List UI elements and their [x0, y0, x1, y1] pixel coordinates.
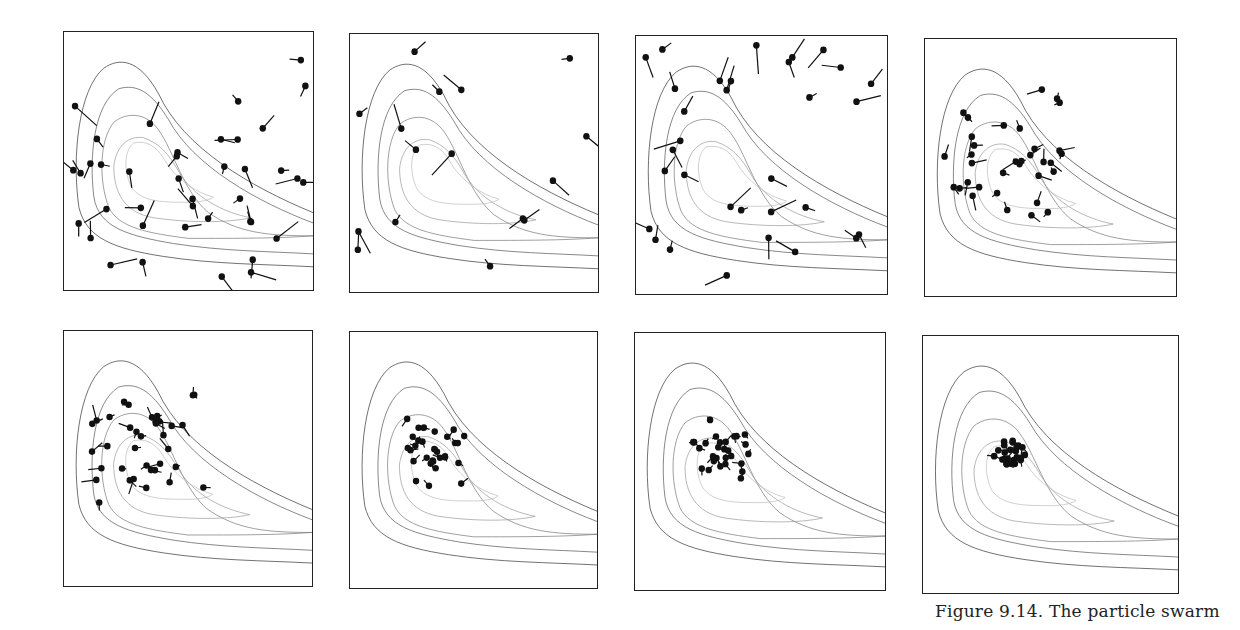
particle-dot [728, 78, 735, 85]
particle-dot [705, 467, 712, 474]
particle-dot [789, 54, 796, 61]
particle-dot [995, 447, 1002, 454]
particle-dot [455, 460, 461, 467]
particle-dot [160, 432, 166, 439]
contour-line [388, 415, 597, 537]
particle-dot [768, 175, 775, 182]
particle-dot [175, 175, 181, 182]
particle-dot [278, 167, 284, 174]
particle-dot [731, 433, 738, 440]
particle-dot [662, 168, 669, 175]
particle-dot [702, 440, 709, 447]
particle-dot [448, 150, 454, 157]
panel-plot [635, 333, 885, 590]
panel-plot [925, 39, 1176, 296]
particle-dot [140, 222, 146, 229]
contour-line [400, 139, 536, 223]
particle-dot [191, 391, 197, 398]
particle-dot [802, 204, 809, 211]
particle-dot [98, 465, 104, 472]
particle-dot [127, 424, 133, 431]
particle-dot [458, 86, 464, 93]
particle-dot [404, 416, 410, 423]
particle-dot [94, 136, 100, 143]
particle-dot [182, 224, 188, 231]
contour-line [673, 416, 885, 539]
particle-dot [126, 168, 132, 175]
particle-dot [173, 464, 179, 471]
panel-plot [64, 32, 313, 290]
particle-dot [646, 226, 653, 233]
particle-dot [696, 445, 703, 452]
particle-dot [410, 433, 416, 440]
particle-dot [424, 454, 430, 461]
particle-dot [699, 465, 706, 472]
velocity-tail [394, 104, 401, 128]
particle-dot [768, 209, 775, 216]
figure-panel-4 [924, 38, 1177, 297]
velocity-tail [705, 275, 727, 285]
particle-dot [1050, 168, 1057, 175]
particle-dot [103, 206, 109, 213]
particle-dot [991, 453, 998, 460]
particle-dot [652, 236, 659, 243]
particle-dot [458, 480, 464, 487]
contour-line [686, 141, 824, 225]
velocity-tail [731, 188, 751, 207]
contour-line [953, 94, 1176, 260]
velocity-tail [444, 75, 462, 90]
particle-dot [567, 55, 573, 62]
particle-dot [713, 433, 720, 440]
particle-dot [421, 424, 427, 431]
velocity-tail [150, 102, 159, 124]
particle-dot [717, 77, 724, 84]
particle-dot [107, 262, 113, 269]
particle-dot [89, 421, 95, 428]
particle-dot [93, 477, 99, 484]
particle-dot [738, 207, 745, 214]
contour-line [76, 361, 312, 563]
particle-dot [1017, 125, 1024, 132]
particle-dot [1003, 461, 1010, 468]
particle-dot [356, 110, 362, 117]
particle-dot [659, 46, 666, 53]
particle-dot [667, 246, 674, 253]
velocity-tail [792, 39, 804, 58]
particle-dot [738, 475, 745, 482]
particle-dot [413, 146, 419, 153]
particle-dot [436, 88, 442, 95]
particle-dot [405, 445, 411, 452]
figure-panel-8 [922, 335, 1179, 594]
particle-dot [166, 479, 172, 486]
particle-dot [392, 219, 398, 226]
particle-dot [219, 273, 225, 280]
particle-dot [235, 98, 241, 105]
particle-dot [72, 103, 78, 110]
particle-dot [1045, 209, 1052, 216]
particle-dot [174, 153, 180, 160]
particle-dot [853, 235, 860, 242]
particle-dot [119, 465, 125, 472]
particle-dot [1028, 212, 1035, 219]
particle-dot [157, 460, 163, 467]
particle-dot [75, 220, 81, 227]
particle-dot [994, 190, 1001, 197]
particle-dot [87, 235, 93, 242]
velocity-tail [84, 209, 106, 222]
velocity-tail [276, 178, 298, 184]
figure-panel-3 [635, 35, 888, 295]
particle-dot [950, 184, 957, 191]
particle-dot [642, 54, 649, 61]
panel-plot [350, 34, 598, 292]
particle-dot [104, 443, 110, 450]
particle-dot [806, 94, 813, 101]
particle-dot [1039, 86, 1046, 93]
contour-line [126, 142, 213, 202]
particle-dot [1000, 169, 1007, 176]
particle-dot [143, 485, 149, 492]
particle-dot [1016, 161, 1023, 168]
velocity-tail [432, 154, 452, 175]
particle-dot [294, 175, 300, 182]
particle-dot [941, 153, 948, 160]
contour-line [362, 362, 597, 565]
